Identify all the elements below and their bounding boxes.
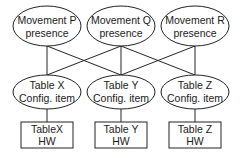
node-label: Movement Q <box>91 14 151 26</box>
node-label: TableX <box>31 123 63 135</box>
node-label: Table Y <box>104 79 139 91</box>
node-label: presence <box>173 27 216 39</box>
node-label: Table Z <box>178 123 213 135</box>
node-table-x-hw: TableX HW <box>21 122 73 148</box>
node-label: HW <box>186 135 204 147</box>
node-movement-r: Movement R presence <box>161 6 229 46</box>
node-label: presence <box>25 27 68 39</box>
node-movement-q: Movement Q presence <box>87 6 155 46</box>
node-label: Table X <box>29 79 64 91</box>
node-table-y-hw: Table Y HW <box>95 122 147 148</box>
node-label: Config. item <box>19 92 75 104</box>
node-movement-p: Movement P presence <box>13 6 81 46</box>
node-label: HW <box>38 135 56 147</box>
node-table-x-config: Table X Config. item <box>13 75 81 109</box>
node-label: presence <box>99 27 142 39</box>
node-table-z-hw: Table Z HW <box>169 122 221 148</box>
node-table-z-config: Table Z Config. item <box>161 75 229 109</box>
node-label: Movement R <box>165 14 225 26</box>
node-label: HW <box>112 135 130 147</box>
node-label: Config. item <box>167 92 223 104</box>
node-label: Movement P <box>18 14 77 26</box>
diagram-canvas: Movement P presence Movement Q presence … <box>0 0 240 158</box>
node-label: Table Z <box>178 79 213 91</box>
node-label: Config. item <box>93 92 149 104</box>
node-label: Table Y <box>104 123 139 135</box>
node-table-y-config: Table Y Config. item <box>87 75 155 109</box>
